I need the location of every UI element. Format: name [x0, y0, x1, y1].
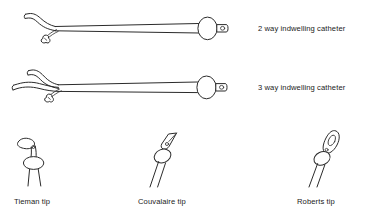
three-way-catheter-label: 3 way indwelling catheter [258, 83, 346, 92]
tieman-tip-label: Tieman tip [14, 197, 50, 206]
catheter-diagram: 2 way indwelling catheter [0, 0, 373, 219]
diagram-canvas: 2 way indwelling catheter [0, 0, 373, 219]
two-way-tip-eyelet [217, 25, 228, 32]
roberts-tip-label: Roberts tip [297, 197, 335, 206]
three-way-balloon [197, 76, 216, 99]
two-way-balloon [198, 17, 217, 40]
three-way-tip-eyelet [216, 84, 227, 91]
two-way-catheter-label: 2 way indwelling catheter [258, 24, 346, 33]
couvalaire-tip-label: Couvalaire tip [138, 197, 186, 206]
tieman-balloon [23, 157, 43, 170]
